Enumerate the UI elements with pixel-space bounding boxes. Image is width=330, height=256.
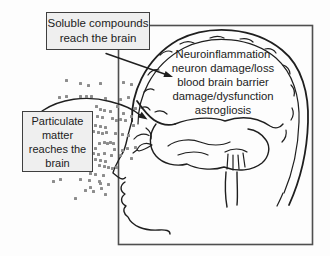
callout-line: reach the brain (60, 31, 137, 46)
eye-shape (137, 143, 152, 151)
callout-line: reaches the (29, 142, 86, 156)
callout-line: Soluble compounds (47, 16, 148, 31)
brain-effects-label: Neuroinflammation neuron damage/loss blo… (158, 47, 288, 117)
brain-effect-line: astrogliosis (158, 103, 288, 117)
soluble-compounds-callout: Soluble compounds reach the brain (46, 12, 150, 50)
face-profile (113, 121, 170, 234)
brain-effect-line: blood brain barrier (158, 75, 288, 89)
brain-effect-line: Neuroinflammation (158, 47, 288, 61)
brain-effect-line: damage/dysfunction (158, 89, 288, 103)
eyebrow-line (134, 134, 149, 139)
brain-effect-line: neuron damage/loss (158, 61, 288, 75)
callout-line: Particulate (32, 114, 84, 128)
figure-canvas: Soluble compounds reach the brain Partic… (0, 0, 330, 256)
callout-line: matter (42, 128, 73, 142)
particulate-matter-callout: Particulate matter reaches the brain (22, 111, 93, 172)
callout-line: brain (45, 156, 69, 170)
